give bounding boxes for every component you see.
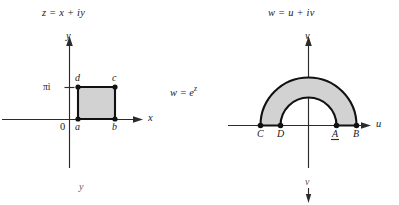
w-plane-stray-v-label: v [305,176,309,187]
w-plane-graphics [0,0,399,205]
w-plane-point-label-b: B [353,129,359,139]
w-plane-stray-arrow [306,188,311,203]
w-plane-point-label-a: A [332,129,338,139]
w-plane-point-label-d: D [277,129,284,139]
w-plane-u-axis-label: u [376,119,381,130]
w-plane-v-axis-label: v [305,31,310,42]
w-plane-vertical-axis [305,36,312,168]
w-plane-point-label-c: C [257,129,264,139]
figure-canvas: z = x + iy y x 0 πi a b c d y w = ez w [0,0,399,205]
